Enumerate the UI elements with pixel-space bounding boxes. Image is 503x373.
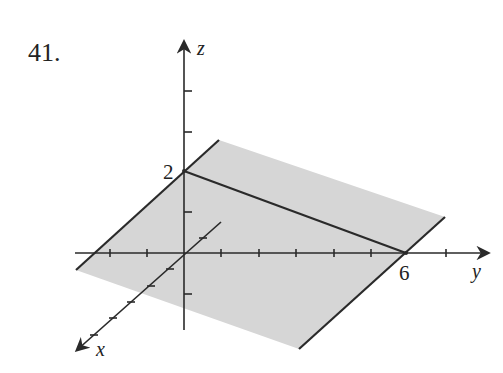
y-intercept-point <box>404 251 408 255</box>
plane-surface <box>76 140 445 349</box>
y-intercept-label: 6 <box>399 261 410 285</box>
axes-diagram: z y x 2 6 <box>0 0 503 373</box>
z-intercept-label: 2 <box>163 160 174 184</box>
x-axis-label: x <box>95 338 105 360</box>
problem-number: 41. <box>28 38 61 68</box>
z-axis-label: z <box>196 37 205 59</box>
z-intercept-point <box>182 169 186 173</box>
y-axis-label: y <box>470 260 481 283</box>
figure: 41. <box>0 0 503 373</box>
